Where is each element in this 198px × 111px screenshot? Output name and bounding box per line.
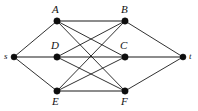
node-t bbox=[180, 54, 186, 60]
node-label-s: s bbox=[4, 52, 8, 61]
node-layer bbox=[11, 18, 186, 94]
network-diagram-figure: sABDCEFt bbox=[0, 0, 198, 111]
node-label-C: C bbox=[120, 40, 127, 51]
node-label-E: E bbox=[52, 96, 59, 107]
node-A bbox=[54, 18, 60, 24]
node-label-t: t bbox=[189, 52, 192, 61]
edge-layer bbox=[14, 21, 183, 91]
node-label-D: D bbox=[51, 40, 59, 51]
edge-B-t bbox=[125, 21, 183, 57]
node-D bbox=[54, 54, 60, 60]
node-F bbox=[122, 88, 128, 94]
graph-canvas bbox=[0, 0, 198, 111]
node-label-A: A bbox=[52, 4, 59, 15]
edge-s-E bbox=[14, 57, 57, 91]
node-label-B: B bbox=[121, 4, 128, 15]
edge-F-t bbox=[125, 57, 183, 91]
node-C bbox=[122, 54, 128, 60]
node-label-F: F bbox=[121, 96, 128, 107]
node-E bbox=[54, 88, 60, 94]
node-B bbox=[122, 18, 128, 24]
node-s bbox=[11, 54, 17, 60]
